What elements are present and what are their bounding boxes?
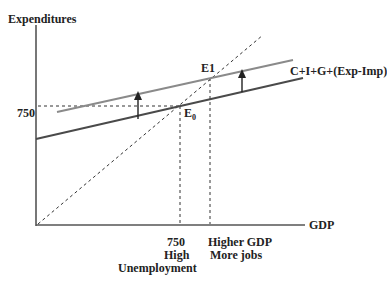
x-tick-750-sub-unemployment: Unemployment	[118, 262, 197, 274]
e0-letter: E	[184, 106, 192, 120]
e0-subscript: 0	[192, 113, 196, 122]
ae-line-shifted	[57, 60, 293, 112]
point-e0-label: E0	[184, 107, 196, 122]
x-tick-higher-gdp: Higher GDP	[208, 236, 272, 248]
forty-five-degree-line	[38, 35, 263, 224]
x-axis-label: GDP	[309, 219, 334, 231]
y-tick-750: 750	[17, 107, 35, 119]
ae-line-label: C+I+G+(Exp-Imp)	[290, 65, 387, 77]
x-tick-750: 750	[167, 236, 185, 248]
x-tick-750-sub-high: High	[164, 249, 189, 261]
point-e1-label: E1	[201, 62, 215, 74]
x-tick-higher-gdp-sub: More jobs	[210, 249, 262, 261]
y-axis-label: Expenditures	[8, 13, 76, 25]
